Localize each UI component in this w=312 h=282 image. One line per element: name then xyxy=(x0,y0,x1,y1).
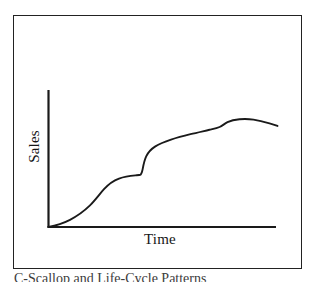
figure-root: Sales Time C-Scallop and Life-Cycle Patt… xyxy=(0,0,312,282)
figure-caption: C-Scallop and Life-Cycle Patterns xyxy=(14,271,300,282)
y-axis-title: Sales xyxy=(26,112,43,182)
sales-curve xyxy=(49,119,278,227)
x-axis-title: Time xyxy=(108,231,212,248)
